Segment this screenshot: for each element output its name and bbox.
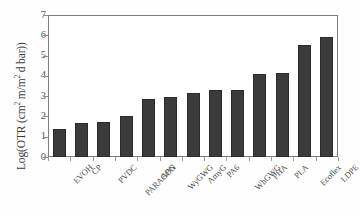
y-tick-label-0: 0	[18, 152, 46, 162]
x-tick-mark-0	[48, 157, 49, 161]
bar-PHA	[253, 74, 266, 157]
x-axis-label-CP: CP	[90, 163, 104, 177]
x-tick-mark-9	[249, 157, 250, 161]
y-tick-label-1: 1	[18, 131, 46, 141]
x-axis-label-LDPE: LDPE	[339, 163, 360, 184]
x-tick-mark-5	[160, 157, 161, 161]
y-tick-label-7: 7	[18, 10, 46, 20]
x-axis-label-AmyG: AmyG	[206, 163, 228, 185]
bar-PLA	[276, 73, 289, 157]
bar-Ecoflex	[298, 45, 311, 157]
x-tick-mark-10	[271, 157, 272, 161]
x-axis-label-EVOH: EVOH	[72, 163, 95, 186]
bar-WyGWG	[164, 97, 177, 157]
x-tick-mark-12	[316, 157, 317, 161]
x-axis-label-PARAGON: PARAGON	[144, 163, 178, 197]
y-tick-label-4: 4	[18, 70, 46, 80]
y-tick-label-6: 6	[18, 30, 46, 40]
x-tick-mark-4	[137, 157, 138, 161]
x-axis-label-PVDC: PVDC	[116, 163, 138, 185]
x-axis-label-PA6: PA6	[225, 163, 241, 179]
x-tick-mark-2	[93, 157, 94, 161]
x-axis-label-WhGWG: WhGWG	[253, 163, 282, 192]
bar-AmyG	[187, 93, 200, 157]
y-tick-label-3: 3	[18, 91, 46, 101]
bar-APG	[142, 99, 155, 157]
x-axis-label-APG: APG	[159, 163, 177, 181]
y-tick-label-5: 5	[18, 50, 46, 60]
bars-layer	[48, 15, 338, 157]
x-axis-label-WyGWG: WyGWG	[186, 163, 215, 192]
x-axis-label-PLA: PLA	[293, 163, 311, 181]
bar-PVDC	[97, 122, 110, 158]
x-tick-mark-7	[204, 157, 205, 161]
bar-WhGWG	[231, 90, 244, 157]
x-tick-mark-1	[70, 157, 71, 161]
y-tick-label-2: 2	[18, 111, 46, 121]
x-axis-label-PHA: PHA	[271, 163, 289, 181]
bar-EVOH	[53, 129, 66, 157]
x-tick-mark-end	[338, 157, 339, 161]
y-axis-title-sup-1: 2	[13, 102, 22, 106]
x-tick-mark-8	[226, 157, 227, 161]
bar-LDPE	[320, 37, 333, 157]
bar-PA6	[209, 90, 222, 157]
bar-CP	[75, 123, 88, 157]
x-tick-mark-11	[293, 157, 294, 161]
x-tick-mark-6	[182, 157, 183, 161]
x-axis-label-Ecoflex: Ecoflex	[318, 163, 343, 188]
x-tick-mark-3	[115, 157, 116, 161]
bar-PARAGON	[120, 116, 133, 157]
